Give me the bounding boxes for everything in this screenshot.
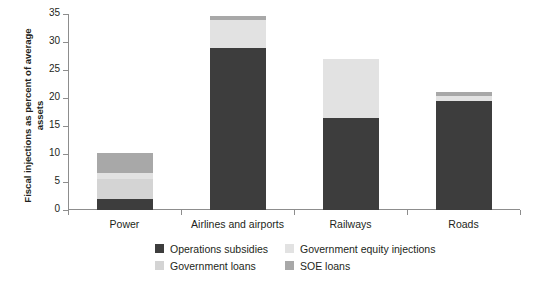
y-axis-tick-label: 5 bbox=[54, 175, 60, 186]
y-axis-tick-label: 30 bbox=[49, 35, 60, 46]
bar-group bbox=[436, 14, 492, 210]
legend-item[interactable]: Government loans bbox=[155, 257, 273, 274]
x-axis-label: Roads bbox=[407, 218, 520, 230]
bar-stack bbox=[323, 59, 379, 210]
bar-segment bbox=[436, 101, 492, 210]
legend-label: SOE loans bbox=[300, 260, 350, 272]
x-axis-labels: PowerAirlines and airportsRailwaysRoads bbox=[68, 218, 520, 234]
bar-segment bbox=[323, 59, 379, 117]
x-axis-label: Power bbox=[68, 218, 181, 230]
x-axis-tick-mark bbox=[294, 210, 295, 215]
y-axis-tick-label: 25 bbox=[49, 63, 60, 74]
bar-group bbox=[210, 14, 266, 210]
x-axis-label: Railways bbox=[294, 218, 407, 230]
bar-segment bbox=[97, 153, 153, 173]
x-axis-label: Airlines and airports bbox=[181, 218, 294, 230]
x-axis-tick-mark bbox=[520, 210, 521, 215]
legend-swatch-icon bbox=[155, 244, 164, 253]
bar-stack bbox=[210, 16, 266, 210]
y-axis-tick-label: 10 bbox=[49, 147, 60, 158]
legend-item[interactable]: SOE loans bbox=[285, 257, 495, 274]
y-axis-tick-label: 35 bbox=[49, 7, 60, 18]
legend-item[interactable]: Government equity injections bbox=[285, 240, 495, 257]
legend-label: Government loans bbox=[170, 260, 256, 272]
bars-layer bbox=[68, 14, 520, 210]
y-axis-tick-label: 0 bbox=[54, 203, 60, 214]
bar-stack bbox=[97, 153, 153, 210]
bar-segment bbox=[97, 179, 153, 200]
y-axis-title: Fiscal injections as percent of average … bbox=[22, 21, 45, 211]
legend-label: Government equity injections bbox=[300, 243, 435, 255]
chart-legend: Operations subsidiesGovernment equity in… bbox=[155, 240, 495, 274]
x-axis-tick-mark bbox=[68, 210, 69, 215]
bar-group bbox=[97, 14, 153, 210]
y-axis-tick-label: 15 bbox=[49, 119, 60, 130]
x-axis-tick-mark bbox=[407, 210, 408, 215]
x-axis-tick-mark bbox=[181, 210, 182, 215]
legend-swatch-icon bbox=[285, 244, 294, 253]
legend-swatch-icon bbox=[285, 261, 294, 270]
bar-stack bbox=[436, 92, 492, 210]
stacked-bar-chart: Fiscal injections as percent of average … bbox=[0, 0, 541, 283]
legend-label: Operations subsidies bbox=[170, 243, 268, 255]
plot-area: 05101520253035 bbox=[68, 14, 520, 210]
legend-swatch-icon bbox=[155, 261, 164, 270]
bar-segment bbox=[210, 20, 266, 49]
bar-segment bbox=[97, 199, 153, 210]
bar-group bbox=[323, 14, 379, 210]
bar-segment bbox=[210, 48, 266, 210]
legend-item[interactable]: Operations subsidies bbox=[155, 240, 273, 257]
y-axis-tick-label: 20 bbox=[49, 91, 60, 102]
bar-segment bbox=[323, 118, 379, 210]
